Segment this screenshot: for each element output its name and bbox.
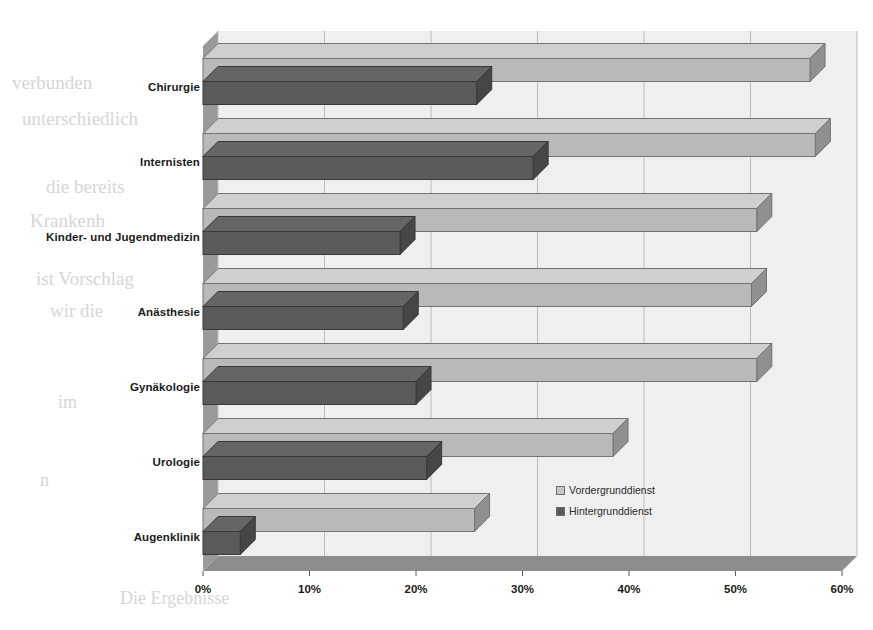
value-axis: 0%10%20%30%40%50%60% [0, 0, 873, 630]
chart-legend: Vordergrunddienst Hintergrunddienst [556, 484, 655, 526]
legend-label: Vordergrunddienst [569, 484, 655, 496]
xtick-label-4: 40% [617, 583, 640, 595]
legend-swatch-light-grey-square [556, 486, 565, 495]
xtick-label-5: 50% [724, 583, 747, 595]
legend-swatch-dark-grey-square [556, 507, 565, 516]
legend-label: Hintergrunddienst [569, 505, 652, 517]
legend-item-hintergrunddienst[interactable]: Hintergrunddienst [556, 505, 655, 517]
xtick-label-1: 10% [298, 583, 321, 595]
xtick-label-0: 0% [195, 583, 212, 595]
legend-item-vordergrunddienst[interactable]: Vordergrunddienst [556, 484, 655, 496]
xtick-label-2: 20% [404, 583, 427, 595]
xtick-label-3: 30% [511, 583, 534, 595]
bar-chart: ChirurgieInternistenKinder- und Jugendme… [0, 0, 873, 630]
xtick-label-6: 60% [830, 583, 853, 595]
